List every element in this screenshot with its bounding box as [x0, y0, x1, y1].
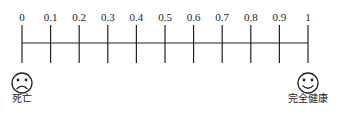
scale-tick-label: 1 [305, 11, 311, 23]
scale-tick-label: 0.2 [72, 11, 86, 23]
scale-tick-label: 0.6 [187, 11, 201, 23]
scale-tick-label: 0 [19, 11, 25, 23]
sad-face-icon [12, 73, 32, 93]
happy-face-icon [298, 73, 318, 93]
scale-tick-label: 0.4 [130, 11, 144, 23]
health-utility-scale: 00.10.20.30.40.50.60.70.80.91 死亡 完全健康 [0, 0, 342, 118]
scale-tick-label: 0.7 [215, 11, 229, 23]
scale-tick-label: 0.9 [273, 11, 287, 23]
scale-tick-label: 0.3 [101, 11, 115, 23]
scale-tick-labels: 00.10.20.30.40.50.60.70.80.91 [19, 11, 311, 23]
right-endpoint-label: 完全健康 [288, 92, 328, 104]
scale-tick-label: 0.1 [44, 11, 58, 23]
left-endpoint-label: 死亡 [12, 92, 32, 104]
scale-tick-label: 0.5 [158, 11, 172, 23]
scale-ticks [22, 25, 308, 63]
scale-tick-label: 0.8 [244, 11, 258, 23]
